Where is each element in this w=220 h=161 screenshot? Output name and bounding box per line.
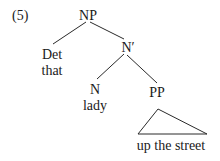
- leaf-up-the-street: up the street: [137, 138, 206, 153]
- node-np: NP: [79, 8, 97, 23]
- node-pp: PP: [149, 85, 165, 100]
- node-nbar: N′: [121, 40, 134, 55]
- example-number: (5): [12, 8, 29, 24]
- leaf-that: that: [42, 63, 63, 78]
- edge-np-nbar: [90, 22, 124, 39]
- node-det: Det: [42, 47, 62, 62]
- edge-np-det: [53, 22, 86, 44]
- syntax-tree: (5) NP Det that N′ N lady PP up the stre…: [0, 0, 220, 161]
- leaf-lady: lady: [83, 98, 107, 113]
- node-n: N: [90, 82, 100, 97]
- edge-nbar-pp: [127, 55, 157, 83]
- pp-triangle: [138, 109, 207, 134]
- edge-nbar-n: [97, 54, 124, 79]
